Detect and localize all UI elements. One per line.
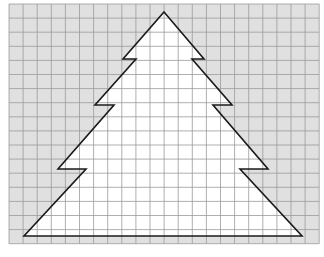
grid-figure — [0, 0, 324, 257]
